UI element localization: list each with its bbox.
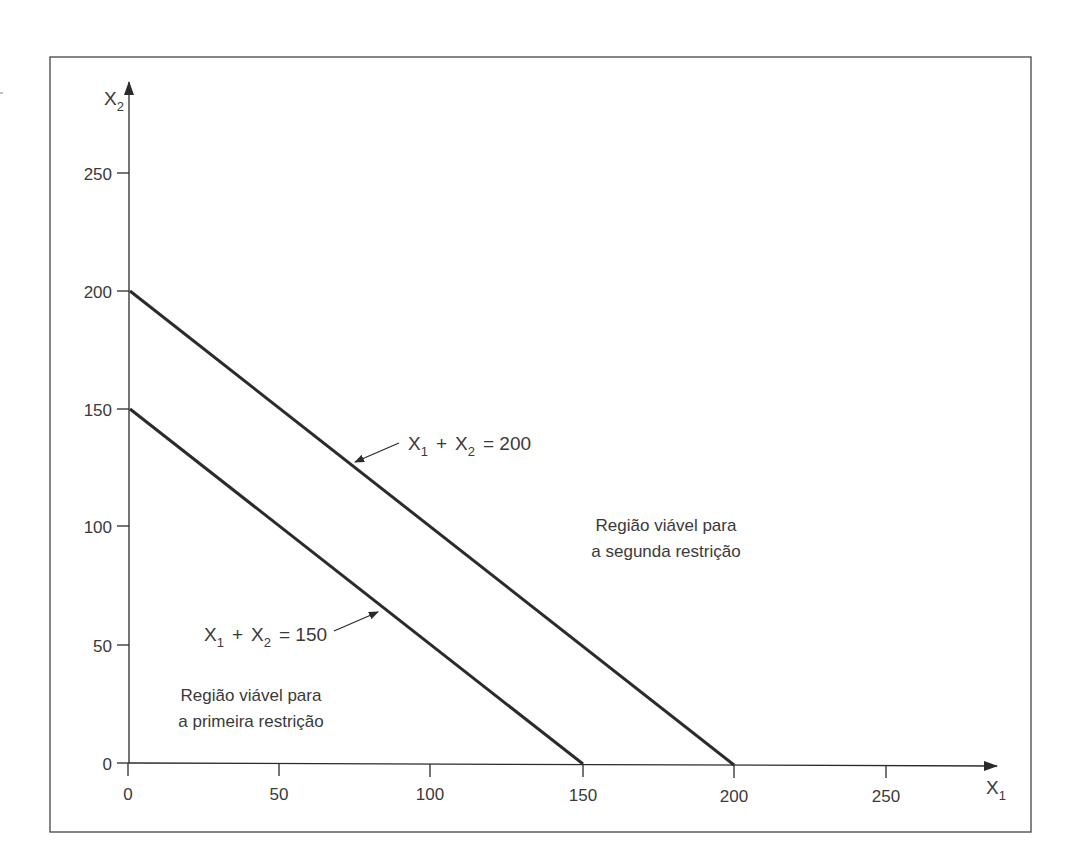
- svg-text:Região viável para: Região viável para: [181, 686, 322, 705]
- svg-text:0: 0: [123, 785, 132, 804]
- svg-text:a primeira restrição: a primeira restrição: [178, 712, 324, 731]
- label-line-150: X1+X2= 150: [204, 624, 327, 650]
- region-label-first: Região viável para a primeira restrição: [178, 686, 324, 731]
- svg-text:50: 50: [270, 785, 289, 804]
- annotation-arrow-150: [334, 612, 378, 631]
- svg-text:Região viável para: Região viável para: [596, 516, 737, 535]
- annotation-arrow-200: [355, 443, 399, 462]
- region-label-second: Região viável para a segunda restrição: [591, 516, 740, 561]
- x-axis: [129, 763, 997, 766]
- svg-text:0: 0: [103, 755, 112, 774]
- svg-text:250: 250: [872, 787, 900, 806]
- svg-text:250: 250: [84, 165, 112, 184]
- svg-text:150: 150: [569, 786, 597, 805]
- y-tick-labels: 250 200 150 100 50 0: [84, 165, 112, 774]
- svg-text:200: 200: [720, 787, 748, 806]
- x-tick-labels: 0 50 100 150 200 250: [123, 785, 900, 806]
- y-ticks: [117, 173, 129, 763]
- svg-text:100: 100: [84, 518, 112, 537]
- label-line-200: X1+X2= 200: [408, 433, 531, 459]
- svg-text:200: 200: [84, 283, 112, 302]
- svg-text:100: 100: [416, 785, 444, 804]
- constraint-line-150: [130, 409, 583, 764]
- chart: X2 X1 250 200 150 100 50 0 0 50 100 150 …: [0, 0, 1083, 866]
- svg-text:150: 150: [84, 401, 112, 420]
- y-axis-label: X2: [104, 88, 124, 114]
- x-axis-label: X1: [986, 777, 1006, 803]
- svg-text:50: 50: [93, 637, 112, 656]
- svg-text:a segunda restrição: a segunda restrição: [591, 542, 740, 561]
